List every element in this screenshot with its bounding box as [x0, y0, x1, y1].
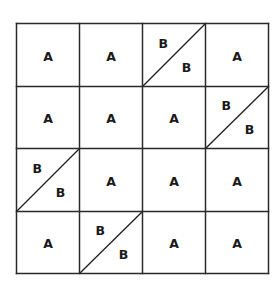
upper-triangle-label: B	[159, 36, 169, 51]
grid-cell-r0-c1: A	[106, 49, 116, 64]
upper-triangle-label: B	[222, 98, 232, 113]
cell-label: A	[232, 236, 242, 251]
grid-cell-r1-c3: BB	[206, 87, 269, 149]
grid-cell-r2-c2: A	[169, 174, 179, 189]
diagonal-divider	[143, 24, 206, 87]
lower-triangle-label: B	[245, 122, 255, 137]
grid-cell-r0-c2: BB	[143, 24, 206, 87]
diagonal-divider	[80, 212, 143, 274]
cell-label: A	[169, 111, 179, 126]
cell-label: A	[106, 174, 116, 189]
grid-cell-r3-c2: A	[169, 236, 179, 251]
quilt-grid-diagram: AABBAAAABBBBAAAABBAA	[0, 0, 276, 290]
cell-label: A	[169, 236, 179, 251]
grid-cell-r0-c3: A	[232, 49, 242, 64]
cell-label: A	[232, 49, 242, 64]
upper-triangle-label: B	[33, 161, 43, 176]
cell-label: A	[232, 174, 242, 189]
grid-cell-r0-c0: A	[43, 49, 53, 64]
cell-label: A	[43, 49, 53, 64]
cell-label: A	[106, 111, 116, 126]
grid-cell-r3-c1: BB	[80, 212, 143, 274]
cell-label: A	[43, 236, 53, 251]
grid-cell-r1-c1: A	[106, 111, 116, 126]
cell-label: A	[169, 174, 179, 189]
lower-triangle-label: B	[56, 185, 66, 200]
cell-label: A	[43, 111, 53, 126]
diagonal-divider	[17, 149, 80, 212]
lower-triangle-label: B	[182, 60, 192, 75]
grid-cell-r3-c3: A	[232, 236, 242, 251]
grid-cell-r2-c1: A	[106, 174, 116, 189]
lower-triangle-label: B	[119, 247, 129, 262]
grid-cell-r1-c0: A	[43, 111, 53, 126]
grid-cell-r2-c0: BB	[17, 149, 80, 212]
grid-cell-r3-c0: A	[43, 236, 53, 251]
grid-cell-r2-c3: A	[232, 174, 242, 189]
grid-cell-r1-c2: A	[169, 111, 179, 126]
upper-triangle-label: B	[96, 223, 106, 238]
diagonal-divider	[206, 87, 269, 149]
cell-label: A	[106, 49, 116, 64]
